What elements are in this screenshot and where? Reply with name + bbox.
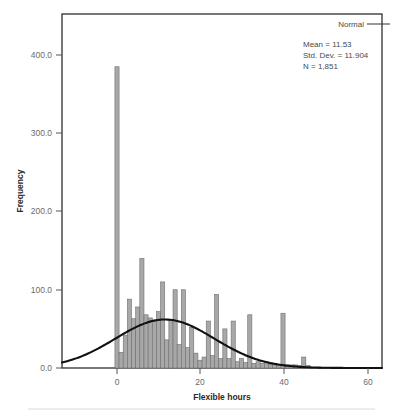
legend-label-normal: Normal [338,20,364,29]
histogram-bar [177,345,181,368]
histogram-bar [248,315,252,368]
histogram-bar [202,357,206,368]
histogram-bar [169,319,173,368]
histogram-bar [173,290,177,368]
histogram-bar [256,362,260,368]
y-tick-label-0: 0.0 [40,363,52,373]
stat-mean: Mean = 11.53 [303,40,352,49]
y-tick-label-100: 100.0 [31,285,53,295]
histogram-bar [268,364,272,368]
histogram-bar [235,362,239,368]
histogram-bar [115,67,119,368]
histogram-bar [123,335,127,368]
histogram-bar [223,329,227,368]
histogram-bar [119,352,123,368]
histogram-bar [239,359,243,368]
histogram-bar [194,353,198,368]
stat-n: N = 1,851 [303,62,338,71]
histogram-bar [152,321,156,368]
histogram-bar [165,340,169,368]
histogram-bar [161,282,165,368]
y-tick-label-300: 300.0 [31,128,53,138]
histogram-bar [281,313,285,368]
statistics-annotation: Mean = 11.53 Std. Dev. = 11.904 N = 1,85… [303,40,369,71]
y-tick-label-400: 400.0 [31,50,53,60]
histogram-bar [127,299,131,368]
y-tick-label-200: 200.0 [31,206,53,216]
x-tick-label-40: 40 [279,377,289,387]
histogram-bar [198,360,202,368]
x-tick-label-60: 60 [363,377,373,387]
x-axis-tick-labels: 0 20 40 60 [115,377,373,387]
histogram-bar [206,321,210,368]
histogram-figure: 0.0 100.0 200.0 300.0 400.0 Frequency 0 … [0,0,395,416]
histogram-bar [132,319,136,368]
histogram-bar [190,327,194,368]
x-tick-label-20: 20 [195,377,205,387]
chart-canvas: 0.0 100.0 200.0 300.0 400.0 Frequency 0 … [0,0,395,416]
y-axis-tick-labels: 0.0 100.0 200.0 300.0 400.0 [31,50,53,373]
histogram-bar [148,318,152,368]
histogram-bar [185,348,189,368]
x-axis-title: Flexible hours [193,392,251,402]
histogram-bar [181,290,185,368]
histogram-bar [227,359,231,368]
histogram-bar [215,294,219,368]
histogram-bar [210,355,214,368]
x-tick-label-0: 0 [115,377,120,387]
y-axis-ticks [56,55,62,368]
histogram-bar [252,363,256,368]
histogram-bar [219,359,223,368]
x-axis-ticks [117,368,368,374]
histogram-bar [231,321,235,368]
y-axis-title: Frequency [15,169,25,212]
histogram-bar [244,363,248,368]
stat-std-dev: Std. Dev. = 11.904 [303,51,369,60]
histogram-bar [260,363,264,368]
histogram-bar [140,258,144,368]
histogram-bar [136,307,140,368]
